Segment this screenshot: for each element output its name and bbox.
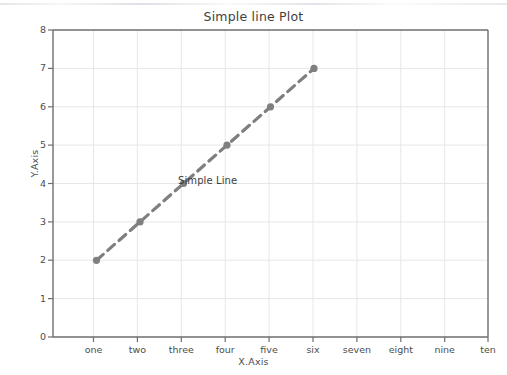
ytick-label-3: 3: [22, 216, 46, 227]
plot-canvas: [0, 0, 507, 375]
y-axis-title: Y.Axis: [29, 134, 40, 194]
data-point-six: [310, 65, 317, 72]
ytick-label-6: 6: [22, 101, 46, 112]
x-axis-title: X.Axis: [0, 356, 507, 367]
chart-figure: Simple line Plot: [0, 0, 507, 375]
series-annotation-label: Simple Line: [178, 175, 237, 186]
xtick-label-ten: ten: [458, 344, 507, 355]
ytick-label-2: 2: [22, 254, 46, 265]
data-point-two: [136, 218, 143, 225]
data-point-one: [93, 257, 100, 264]
ytick-label-7: 7: [22, 62, 46, 73]
ytick-label-0: 0: [22, 331, 46, 342]
ytick-label-8: 8: [22, 24, 46, 35]
data-point-four: [223, 142, 230, 149]
data-point-five: [267, 103, 274, 110]
x-axis-ticks: [94, 337, 489, 342]
ytick-label-1: 1: [22, 293, 46, 304]
y-axis-ticks: [48, 30, 53, 337]
